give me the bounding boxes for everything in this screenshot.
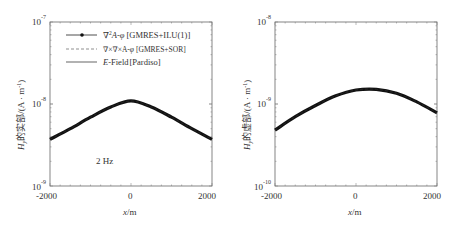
left-ytick-bot-exp: -9 — [41, 179, 46, 185]
left-xtick-neg: -2000 — [36, 191, 57, 201]
svg-text:∇2A-φ[GMRES+ILU(1)]: ∇2A-φ[GMRES+ILU(1)] — [103, 30, 190, 40]
right-ytick-top-exp: -8 — [266, 14, 271, 20]
figure: 10 -7 10 -8 10 -9 -2000 0 2000 x/m Hy的实部… — [0, 0, 464, 229]
right-ytick-bot-exp: -10 — [263, 179, 271, 185]
left-ytick-top-exp: -7 — [41, 14, 46, 20]
right-curve-sor — [275, 89, 437, 130]
right-ytick-mid-exp: -9 — [266, 96, 271, 102]
left-xtick-pos: 2000 — [198, 191, 217, 201]
left-panel: 10 -7 10 -8 10 -9 -2000 0 2000 x/m Hy的实部… — [15, 14, 217, 217]
legend: ∇2A-φ[GMRES+ILU(1)] ∇×∇×A-φ[GMRES+SOR] E… — [66, 30, 190, 67]
left-ylabel: Hy的实部/(A · m-1) — [15, 80, 27, 151]
legend-item-sor: ∇×∇×A-φ[GMRES+SOR] — [66, 45, 186, 54]
left-ytick-mid-exp: -8 — [41, 96, 46, 102]
left-curve-sor — [50, 101, 212, 139]
svg-text:E-Field[Pardiso]: E-Field[Pardiso] — [102, 57, 161, 67]
right-ylabel: Hy的虚部/(A · m-1) — [241, 80, 253, 151]
left-xtick-zero: 0 — [128, 191, 133, 201]
right-axis-ticks — [275, 22, 437, 186]
left-xlabel: x/m — [122, 207, 137, 217]
right-plot-frame — [275, 22, 437, 186]
right-panel: 10 -8 10 -9 10 -10 -2000 0 2000 x/m Hy的虚… — [241, 14, 442, 217]
legend-item-ilu: ∇2A-φ[GMRES+ILU(1)] — [66, 30, 190, 40]
right-xlabel: x/m — [347, 207, 362, 217]
right-xtick-pos: 2000 — [423, 191, 442, 201]
right-curve-ilu — [275, 89, 437, 130]
right-xtick-zero: 0 — [353, 191, 358, 201]
svg-text:∇×∇×A-φ[GMRES+SOR]: ∇×∇×A-φ[GMRES+SOR] — [103, 45, 186, 54]
left-curve-ilu — [50, 101, 212, 139]
legend-item-pardiso: E-Field[Pardiso] — [66, 57, 161, 67]
frequency-annotation: 2 Hz — [96, 156, 113, 166]
right-xtick-neg: -2000 — [261, 191, 282, 201]
marker-icon — [80, 33, 84, 37]
